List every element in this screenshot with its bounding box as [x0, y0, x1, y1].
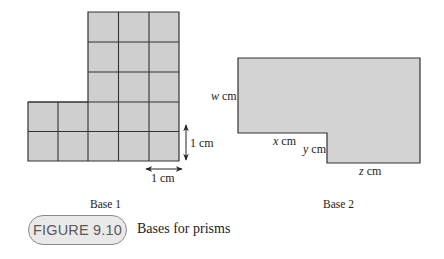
base1-title: Base 1 — [90, 198, 121, 210]
vertical-scale-label: 1 cm — [190, 136, 214, 150]
base2-label-z: z cm — [358, 164, 382, 178]
figure-caption: Bases for prisms — [137, 221, 230, 237]
base2-label-y: y cm — [302, 142, 327, 156]
base2-shape — [238, 58, 420, 163]
figure-label-badge: FIGURE 9.10 — [28, 215, 127, 245]
base2-title: Base 2 — [323, 198, 354, 210]
base1-grid — [28, 12, 179, 161]
base2-label-w: w cm — [211, 89, 237, 103]
base2-label-x: x cm — [272, 134, 297, 148]
horizontal-scale-label: 1 cm — [151, 171, 175, 185]
